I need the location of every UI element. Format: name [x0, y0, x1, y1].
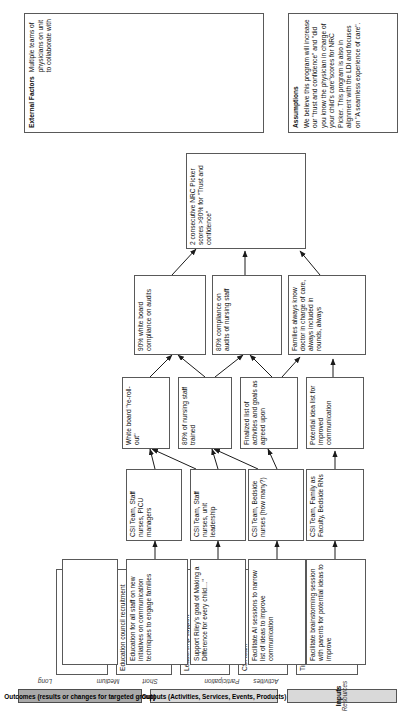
short-outcome-2[interactable]: 80% of nursing staff trained [178, 377, 232, 449]
medium-outcome-0[interactable]: Families always know doctor in charge of… [288, 275, 366, 355]
header-outcomes-sub-medium: Medium [88, 677, 128, 687]
header-inputs: Inputs Resources [287, 689, 397, 703]
assumptions-text: We believe this program will increase ou… [303, 18, 363, 128]
assumptions-panel: Assumptions We believe this program will… [288, 13, 398, 133]
short-outcome-3[interactable]: White board "re-roll-out" [122, 377, 170, 449]
activity-empty[interactable] [62, 559, 118, 665]
activity-riley-goal[interactable]: Support Riley's goal of Making a Differe… [190, 559, 246, 665]
header-outcomes-sub-long: Long [30, 677, 60, 687]
header-outcomes-sub-short: Short [133, 677, 167, 687]
header-outputs-sub-participation: Participation [198, 677, 246, 687]
activity-brainstorming[interactable]: Facilitate brainstorming session with pa… [306, 559, 366, 665]
rotated-logic-model-canvas: Inputs Resources Outputs (Activities, Se… [0, 0, 416, 727]
medium-outcome-2[interactable]: 90% white board compliance on audits [134, 275, 206, 355]
header-outputs [150, 689, 278, 703]
long-outcome-0[interactable]: 2 consecutive NRC Picker scores >90% for… [186, 153, 306, 249]
activity-ai-sessions[interactable]: Facilitate AI sessions to narrow list of… [248, 559, 306, 665]
short-outcome-0[interactable]: Potential idea list for improved communi… [306, 377, 364, 449]
header-outcomes [18, 689, 142, 703]
participation-box-2[interactable]: CSI Team, Staff nurses, unit leadership [190, 469, 246, 541]
external-factors-panel: External Factors Multiple teams of physi… [24, 13, 264, 133]
short-outcome-1[interactable]: Finalized list of activities and goals a… [240, 377, 298, 449]
participation-box-1[interactable]: CSI Team, Bedside nurses (how many?) [248, 469, 304, 541]
participation-box-3[interactable]: CSI Team, Staff nurses, PICU managers [126, 469, 182, 541]
header-outputs-sub-activities: Activities [246, 677, 286, 687]
logic-model-diagram: Inputs Resources Outputs (Activities, Se… [0, 0, 416, 727]
participation-box-0[interactable]: CSI Team, Family as Faculty, Bedside RNs [306, 469, 364, 541]
external-factors-text: Multiple teams of physicians on unit to … [28, 18, 54, 72]
assumptions-title: Assumptions [292, 18, 301, 128]
medium-outcome-1[interactable]: 80% compliance on audits of nursing staf… [212, 275, 282, 355]
header-inputs-sub-resources: Resources [342, 681, 349, 712]
activity-education-all-staff[interactable]: Education for all staff on new initiativ… [126, 559, 188, 665]
external-factors-title: External Factors [28, 76, 37, 128]
